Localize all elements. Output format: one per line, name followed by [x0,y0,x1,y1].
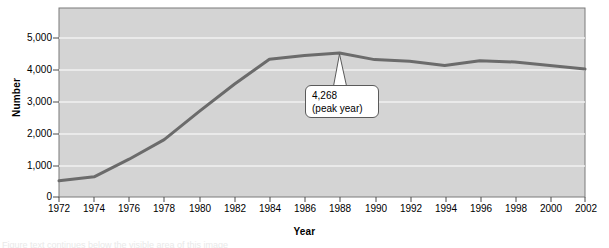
plot-area [0,0,609,248]
line-chart-figure: Number 5,000 4,000 3,000 2,000 1,000 0 1… [0,0,609,248]
figure-caption-clipped: Figure text continues below the visible … [0,241,609,248]
y-axis-ticks [53,38,59,197]
callout-value: 4,268 [312,89,378,102]
x-axis-ticks [59,197,585,202]
callout-note: (peak year) [312,102,378,115]
caption-text: Figure text continues below the visible … [0,241,609,248]
peak-year-callout: 4,268 (peak year) [305,85,379,118]
